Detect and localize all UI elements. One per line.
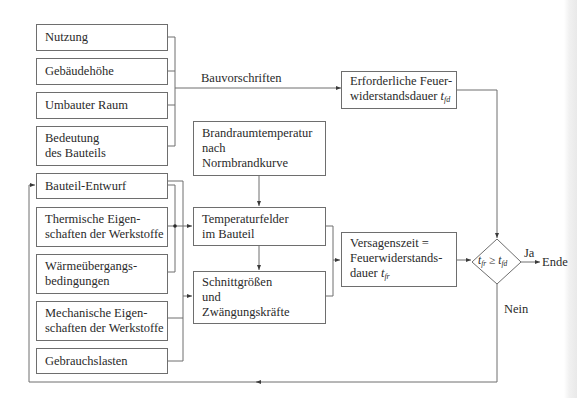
box-label-line1: Mechanische Eigen- [45, 306, 167, 321]
box-label-line3: Normbrandkurve [202, 156, 325, 171]
box-label: Nutzung [45, 30, 167, 45]
box-nutzung: Nutzung [36, 24, 168, 51]
box-gebrauchslasten: Gebrauchslasten [36, 348, 168, 374]
box-temperaturfelder: Temperaturfelder im Bauteil [193, 207, 326, 246]
box-label-line2: widerstandsdauer tfd [350, 89, 456, 107]
symbol-subscript: fr [384, 272, 389, 281]
condition-operator: ≥ [486, 254, 498, 266]
box-label-line1: Versagenszeit = [350, 236, 456, 251]
symbol-t-fd: tfd [441, 89, 451, 103]
edge-label-ja: Ja [524, 246, 534, 261]
condition-rhs-sub: fd [501, 259, 507, 268]
box-umbauter-raum: Umbauter Raum [36, 92, 168, 119]
box-label-line1: Brandraumtemperatur [202, 126, 325, 141]
box-mechanische-eigenschaften: Mechanische Eigen- schaften der Werkstof… [36, 301, 168, 341]
symbol-subscript: fd [444, 95, 450, 104]
box-gebaeudehoehe: Gebäudehöhe [36, 58, 168, 85]
box-label-text: widerstandsdauer [350, 89, 441, 103]
box-thermische-eigenschaften: Thermische Eigen- schaften der Werkstoff… [36, 207, 168, 247]
box-waermeuebergangsbedingungen: Wärmeübergangs- bedingungen [36, 254, 168, 294]
box-label: Gebrauchslasten [45, 354, 167, 369]
box-label: Gebäudehöhe [45, 64, 167, 79]
edge-label-bauvorschriften: Bauvorschriften [201, 71, 282, 86]
box-brandraumtemperatur: Brandraumtemperatur nach Normbrandkurve [193, 121, 326, 176]
box-label-line1: Erforderliche Feuer- [350, 74, 456, 89]
box-label-line2: nach [202, 141, 325, 156]
box-erforderliche-feuerwiderstandsdauer: Erforderliche Feuer- widerstandsdauer tf… [341, 71, 457, 109]
box-label-line2: des Bauteils [45, 146, 167, 161]
symbol-t-fr: tfr [381, 266, 390, 280]
box-label-line1: Schnittgrößen [202, 275, 325, 290]
box-label-line2: schaften der Werkstoffe [45, 321, 167, 336]
box-label-line2: im Bauteil [202, 227, 325, 242]
box-label-line1: Thermische Eigen- [45, 212, 167, 227]
edge-label-nein: Nein [504, 302, 528, 317]
box-bauteil-entwurf: Bauteil-Entwurf [36, 173, 168, 199]
box-label-line3: Zwängungskräfte [202, 305, 325, 320]
decision-condition: tfr ≥ tfd [478, 254, 507, 268]
box-label-line1: Temperaturfelder [202, 212, 325, 227]
box-schnittgroessen: Schnittgrößen und Zwängungskräfte [193, 271, 326, 324]
box-label-text: dauer [350, 266, 381, 280]
box-label-line1: Wärmeübergangs- [45, 259, 167, 274]
box-bedeutung-des-bauteils: Bedeutung des Bauteils [36, 126, 168, 166]
box-label-line1: Bedeutung [45, 131, 167, 146]
box-label-line2: schaften der Werkstoffe [45, 227, 167, 242]
box-label: Bauteil-Entwurf [45, 179, 167, 194]
box-label-line3: dauer tfr [350, 266, 456, 284]
box-versagenszeit: Versagenszeit = Feuerwiderstands- dauer … [341, 232, 457, 287]
box-label-line2: bedingungen [45, 274, 167, 289]
box-label-line2: und [202, 290, 325, 305]
edge-label-ende: Ende [542, 255, 568, 270]
box-label: Umbauter Raum [45, 98, 167, 113]
box-label-line2: Feuerwiderstands- [350, 251, 456, 266]
